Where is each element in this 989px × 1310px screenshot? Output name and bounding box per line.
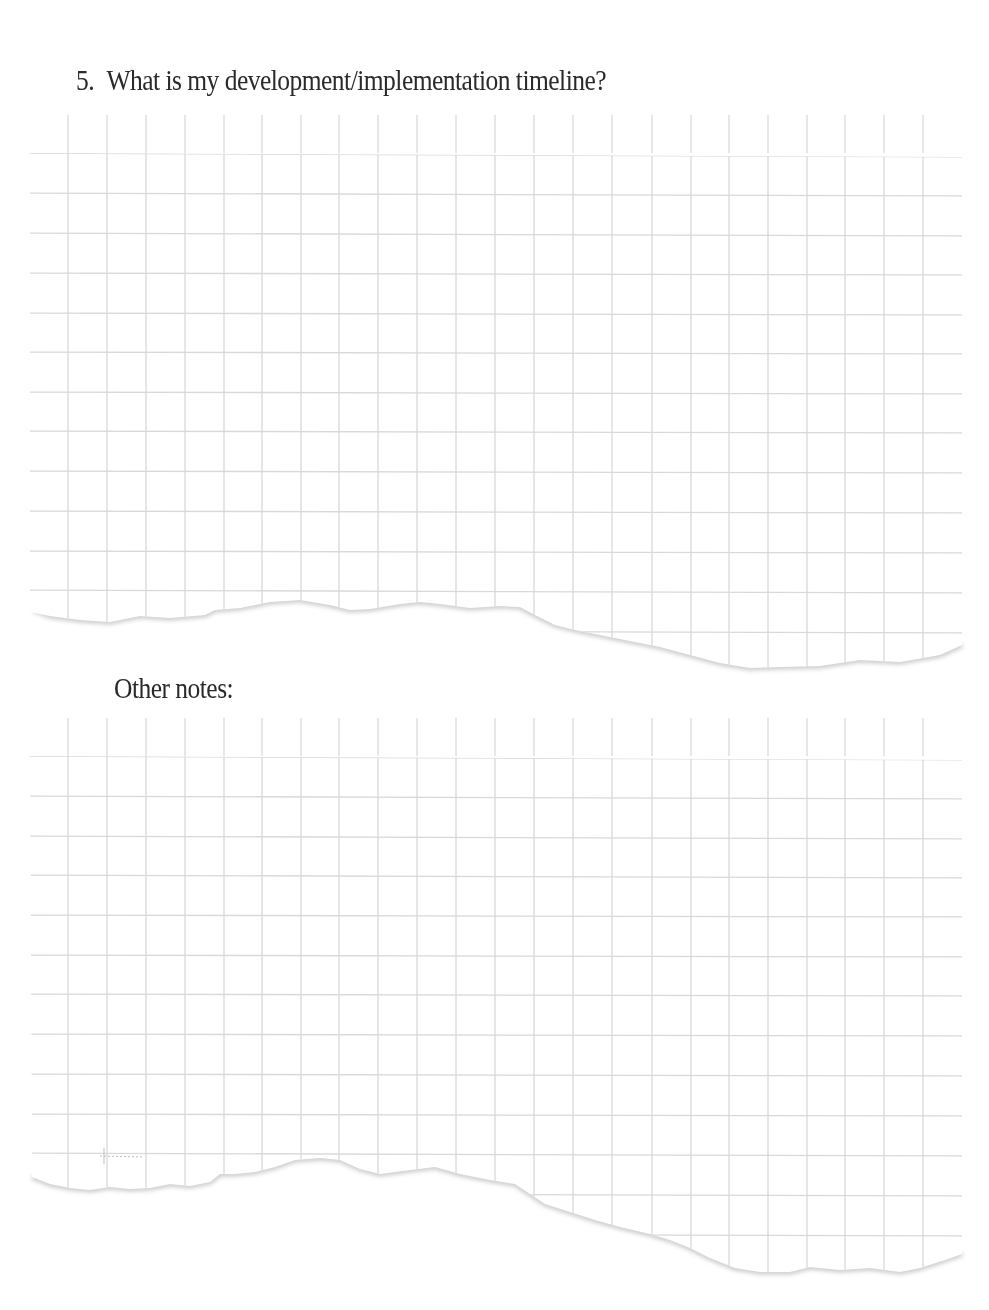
question-5: 5.What is my development/implementation … bbox=[76, 64, 606, 97]
question-number: 5. bbox=[76, 64, 94, 96]
question-text: What is my development/implementation ti… bbox=[106, 64, 606, 96]
graph-paper-sheet-notes[interactable] bbox=[0, 712, 989, 1310]
other-notes-label: Other notes: bbox=[114, 672, 233, 705]
graph-paper-sheet-timeline[interactable] bbox=[0, 110, 989, 690]
graph-paper-grid bbox=[0, 110, 989, 690]
graph-paper-grid bbox=[0, 712, 989, 1310]
